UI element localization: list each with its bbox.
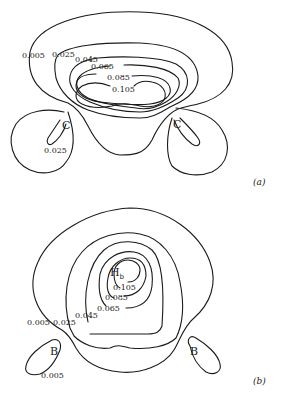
label-b-0045: 0.045 bbox=[75, 311, 98, 320]
label-b-0025: 0.025 bbox=[53, 318, 76, 327]
panel-label-a: (a) bbox=[253, 177, 266, 187]
atom-b-left: B bbox=[50, 345, 58, 358]
label-b-0005: 0.005 bbox=[27, 318, 50, 327]
label-a-0025: 0.025 bbox=[52, 50, 75, 59]
atom-b-right: B bbox=[190, 345, 198, 358]
panel-b: Hb 0.105 0.085 0.065 0.045 0.005 0.025 0… bbox=[26, 208, 267, 386]
label-b-0105: 0.105 bbox=[113, 283, 136, 292]
label-b-0005-lobe: 0.005 bbox=[41, 371, 64, 380]
label-b-0065: 0.065 bbox=[97, 304, 120, 313]
panel-a: 0.005 0.025 0.045 0.065 0.085 0.105 0.02… bbox=[11, 12, 266, 187]
label-a-0005: 0.005 bbox=[22, 51, 45, 60]
atom-c-right: C bbox=[173, 118, 181, 131]
atom-hb: Hb bbox=[110, 266, 125, 281]
label-a-0065: 0.065 bbox=[91, 62, 114, 71]
label-a-0085: 0.085 bbox=[107, 73, 130, 82]
contour-diagram: 0.005 0.025 0.045 0.065 0.085 0.105 0.02… bbox=[0, 0, 281, 394]
label-b-0085: 0.085 bbox=[105, 293, 128, 302]
atom-c-left: C bbox=[62, 119, 70, 132]
label-a-0105: 0.105 bbox=[112, 85, 135, 94]
label-a-0025-lobe: 0.025 bbox=[44, 146, 67, 155]
contour-a-0005 bbox=[29, 12, 232, 155]
panel-label-b: (b) bbox=[253, 376, 266, 386]
